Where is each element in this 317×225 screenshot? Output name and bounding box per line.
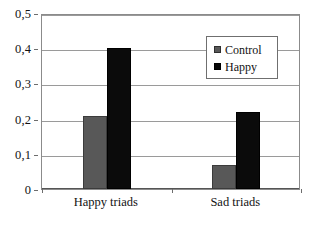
y-tick-label: 0,2 xyxy=(15,113,31,126)
bar-chart-figure: 00,10,20,30,40,5 Happy triadsSad triads … xyxy=(0,0,317,225)
y-tick-label: 0,5 xyxy=(15,8,31,21)
bar-happy-happy-triads xyxy=(107,48,131,189)
y-tick-label: 0,3 xyxy=(15,78,31,91)
bar-happy-sad-triads xyxy=(236,112,260,189)
gridline-0-5 xyxy=(42,15,299,16)
y-tick-label: 0,1 xyxy=(15,149,31,162)
legend-label: Control xyxy=(225,44,262,56)
black-square-swatch xyxy=(214,63,221,70)
x-axis-baseline xyxy=(42,188,299,189)
x-tick-mark xyxy=(42,189,43,193)
legend-label: Happy xyxy=(225,61,257,73)
bar-control-sad-triads xyxy=(212,165,236,189)
y-tick-label: 0,4 xyxy=(15,43,31,56)
legend-entry-control: Control xyxy=(214,41,277,58)
bar-control-happy-triads xyxy=(83,116,107,189)
x-tick-mark xyxy=(301,189,302,193)
gridline-0-1 xyxy=(42,156,299,157)
y-tick-mark xyxy=(34,155,38,156)
x-axis: Happy triadsSad triads xyxy=(41,196,300,220)
y-tick-mark xyxy=(34,49,38,50)
x-tick-label-sad-triads: Sad triads xyxy=(210,196,260,209)
y-axis: 00,10,20,30,40,5 xyxy=(0,0,38,225)
x-tick-mark xyxy=(172,189,173,193)
y-tick-mark xyxy=(34,190,38,191)
legend-entry-happy: Happy xyxy=(214,58,277,75)
y-tick-mark xyxy=(34,84,38,85)
chart-legend: ControlHappy xyxy=(206,36,278,79)
y-tick-mark xyxy=(34,120,38,121)
y-tick-mark xyxy=(34,14,38,15)
y-tick-label: 0 xyxy=(25,184,31,197)
gridline-0-2 xyxy=(42,121,299,122)
gray-square-swatch xyxy=(214,46,221,53)
x-tick-label-happy-triads: Happy triads xyxy=(74,196,138,209)
gridline-0-3 xyxy=(42,85,299,86)
